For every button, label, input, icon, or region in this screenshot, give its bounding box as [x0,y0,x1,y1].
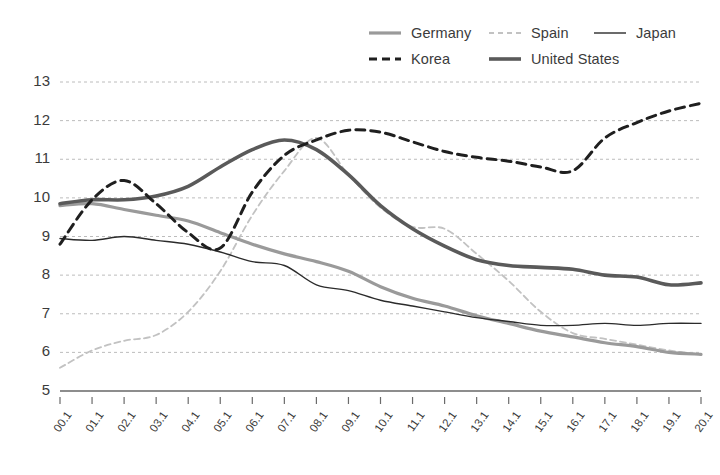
y-axis-tick-label: 9 [24,227,50,244]
y-axis-tick-label: 10 [24,188,50,205]
series-lines [60,103,701,368]
y-axis-tick-label: 7 [24,304,50,321]
series-line-united-states [60,140,701,285]
plot-area: 1312111098765 00.101.102.103.104.105.106… [0,0,720,475]
x-axis-ticks [60,397,701,404]
gridlines [60,82,701,352]
series-line-japan [60,237,701,326]
y-axis-tick-label: 12 [24,111,50,128]
series-line-spain [60,138,701,368]
y-axis-tick-label: 5 [24,381,50,398]
y-axis-tick-label: 6 [24,342,50,359]
chart-container: GermanySpainJapanKoreaUnited States 1312… [0,0,720,475]
series-line-korea [60,103,701,250]
y-axis-tick-label: 11 [24,149,50,166]
y-axis-tick-label: 8 [24,265,50,282]
series-line-germany [60,204,701,355]
y-axis-tick-label: 13 [24,72,50,89]
chart-canvas [0,0,720,475]
